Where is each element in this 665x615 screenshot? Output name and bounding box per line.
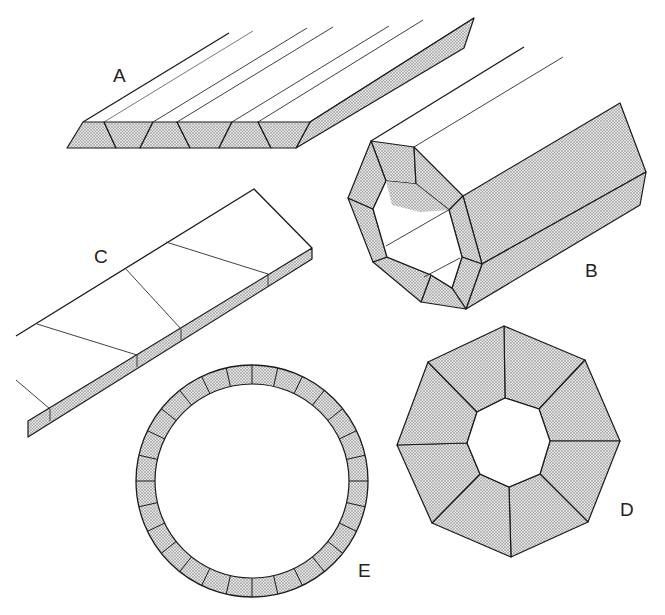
diagram-canvas: A B [0,0,665,615]
label-b: B [585,260,598,281]
figure-a-front-face [67,122,310,148]
label-e: E [358,560,371,581]
label-d: D [620,499,634,520]
figure-d-center-hole [467,398,550,487]
label-c: C [94,246,108,267]
figure-a: A [67,18,474,148]
figure-e-inner-hole [155,384,349,578]
figure-d: D [397,326,634,557]
figure-e: E [136,365,371,597]
figure-a-side-face [296,18,474,148]
label-a: A [113,65,126,86]
